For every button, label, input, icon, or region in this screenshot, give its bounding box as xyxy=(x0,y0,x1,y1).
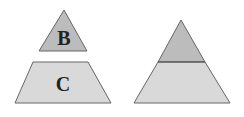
assembled-bottom xyxy=(134,62,230,103)
assembled-top xyxy=(158,20,205,62)
label-c: C xyxy=(56,73,70,95)
pyramid-diagram: B C xyxy=(0,0,244,117)
label-b: B xyxy=(57,27,70,49)
